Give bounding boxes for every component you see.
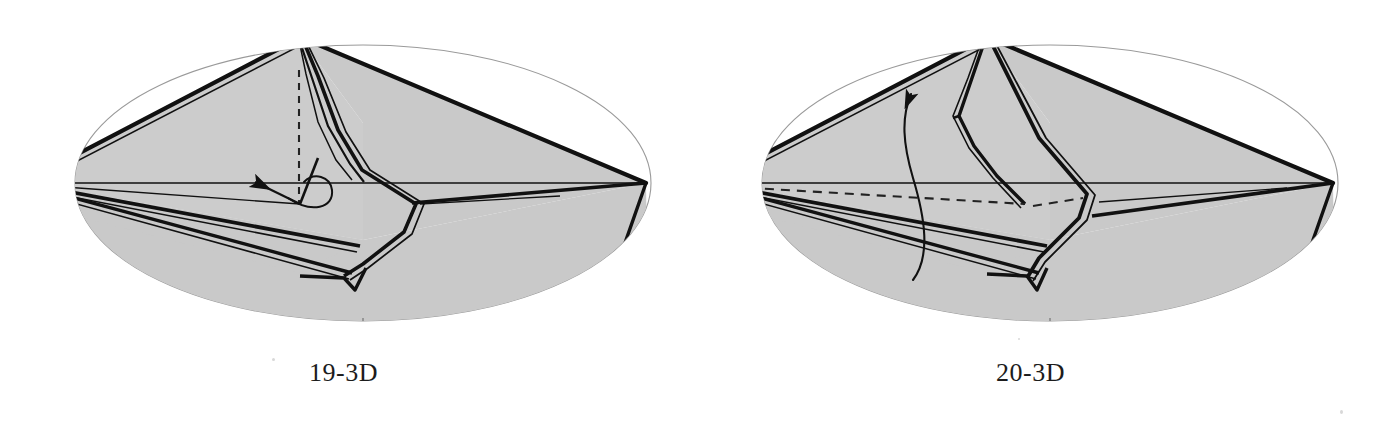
edge-left-point-skirt-a (22, 183, 48, 280)
model-upper-left-facet (22, 38, 363, 240)
figure-20-3d-drawing (687, 18, 1374, 348)
edge-left-point-skirt-a (709, 183, 735, 280)
figure-caption-19-3d: 19-3D (0, 358, 687, 388)
scan-speck (272, 358, 275, 361)
edge-left-point-skirt-b (710, 185, 728, 280)
figure-19-3d-drawing (0, 18, 687, 348)
scan-speck (1018, 338, 1020, 340)
figure-caption-20-3d: 20-3D (687, 358, 1374, 388)
figure-panel-19-3d: 19-3D (0, 0, 687, 448)
scan-speck (1340, 410, 1343, 414)
model-upper-left-facet (709, 38, 1050, 240)
edge-left-point-skirt-b (23, 185, 41, 280)
figure-panel-20-3d: 20-3D (687, 0, 1374, 448)
diagram-page: 19-3D (0, 0, 1374, 448)
